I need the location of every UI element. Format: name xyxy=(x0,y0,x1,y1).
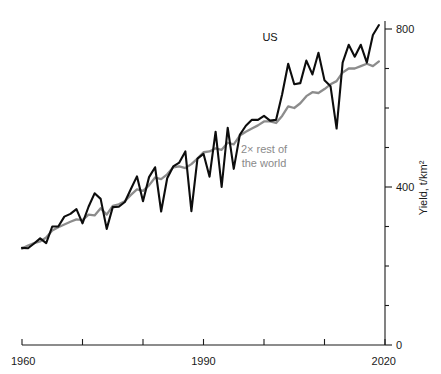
chart-svg: 1960199020200400800 US2× rest ofthe worl… xyxy=(0,0,441,374)
x-tick-label: 1960 xyxy=(11,355,35,367)
x-tick-label: 2020 xyxy=(372,355,396,367)
series-group xyxy=(22,25,379,249)
y-tick-label: 400 xyxy=(396,181,414,193)
x-tick-label: 1990 xyxy=(191,355,215,367)
axes-group: 1960199020200400800 xyxy=(11,21,414,367)
yield-line-chart: 1960199020200400800 US2× rest ofthe worl… xyxy=(0,0,441,374)
y-axis-title: Yield, t/km² xyxy=(417,160,429,215)
series-line-us xyxy=(22,25,379,248)
series-annotation-rest-of-world: 2× rest ofthe world xyxy=(241,143,288,169)
y-tick-label: 0 xyxy=(396,339,402,351)
series-annotation-us: US xyxy=(262,31,277,43)
y-tick-label: 800 xyxy=(396,23,414,35)
